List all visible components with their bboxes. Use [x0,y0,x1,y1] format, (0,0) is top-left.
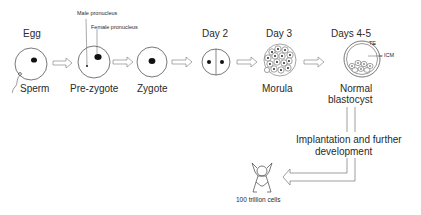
morula-cluster [264,44,296,76]
label-days-4-5: Days 4-5 [331,28,371,39]
label-egg: Egg [23,28,41,39]
label-development: development [315,146,372,157]
two-cell-embryo [202,49,230,75]
label-implantation: Implantation and further [296,134,402,145]
label-te: TE [369,40,376,46]
label-normal: Normal [340,83,372,94]
label-100-trillion-cells: 100 trillion cells [236,196,280,203]
label-blastocyst: blastocyst [328,94,372,105]
arrow-right-icon [304,57,324,67]
label-female-pronucleus: Female pronucleus [91,24,138,30]
baby-figure-icon [252,163,272,192]
label-sperm: Sperm [20,83,49,94]
label-zygote: Zygote [137,83,168,94]
arrow-right-icon [172,57,192,67]
label-morula: Morula [262,83,293,94]
label-icm: ICM [384,52,394,58]
arrow-right-icon [237,57,257,67]
label-pre-zygote: Pre-zygote [70,83,118,94]
label-day-2: Day 2 [202,28,228,39]
label-day-3: Day 3 [266,28,292,39]
zygote-cell [137,47,167,77]
arrow-right-icon [113,57,133,67]
arrow-right-icon [53,58,72,68]
blastocyst [344,41,383,77]
label-male-pronucleus: Male pronucleus [77,10,117,16]
